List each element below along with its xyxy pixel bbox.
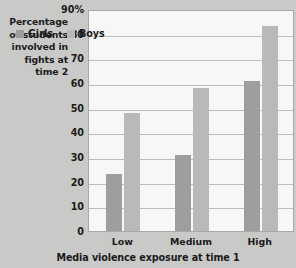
bar-girls-high [244, 81, 260, 231]
y-axis-tick-label: 60 [50, 78, 84, 89]
y-axis-tick-label: 50 [50, 103, 84, 114]
bar-girls-low [106, 174, 122, 231]
y-axis-tick-label: 30 [50, 152, 84, 163]
legend-entry-boys: Boys [67, 28, 105, 39]
y-axis-tick-label: 20 [50, 177, 84, 188]
legend-label: Boys [79, 28, 105, 39]
y-axis-tick-label: 70 [50, 53, 84, 64]
bar-boys-low [124, 113, 140, 231]
y-axis-tick-label: 0 [50, 226, 84, 237]
x-axis-tick-label: High [226, 236, 294, 247]
y-axis-tick-label: 40 [50, 127, 84, 138]
legend-entry-girls: Girls [16, 28, 53, 39]
bar-girls-medium [175, 155, 191, 231]
x-axis-tick-label: Medium [157, 236, 225, 247]
legend-swatch-icon [16, 30, 24, 38]
y-axis-tick-label: 90% [50, 4, 84, 15]
bar-boys-medium [193, 88, 209, 231]
y-axis-tick-label: 10 [50, 201, 84, 212]
legend-swatch-icon [67, 30, 75, 38]
bar-chart-figure: Percentage of students involved in fight… [0, 0, 296, 268]
bar-boys-high [262, 26, 278, 231]
x-axis-tick-label: Low [88, 236, 156, 247]
plot-area [88, 10, 294, 232]
x-axis-title: Media violence exposure at time 1 [0, 252, 296, 263]
legend-label: Girls [28, 28, 53, 39]
y-axis-title: Percentage of students involved in fight… [0, 16, 68, 79]
legend: GirlsBoys [16, 28, 105, 39]
